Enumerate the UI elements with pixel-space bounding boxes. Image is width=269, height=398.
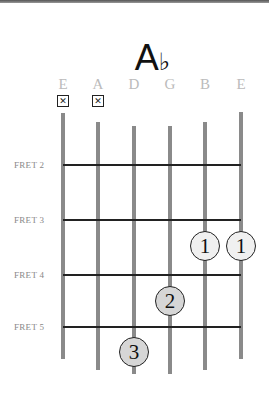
string-label-a: A <box>88 76 108 93</box>
fret-line-3 <box>63 219 241 221</box>
fret-line-2 <box>63 164 241 166</box>
fret-label-3: FRET 3 <box>14 215 44 225</box>
fret-label-2: FRET 2 <box>14 160 44 170</box>
fret-line-4 <box>63 274 241 276</box>
finger-dot-g-string: 2 <box>155 286 185 316</box>
fret-label-5: FRET 5 <box>14 322 44 332</box>
mute-icon-a: ✕ <box>92 95 104 107</box>
chord-root: A <box>135 37 159 78</box>
string-low-e <box>61 113 65 359</box>
finger-dot-b-string: 1 <box>190 231 220 261</box>
finger-dot-d-string: 3 <box>119 337 149 367</box>
top-border <box>0 0 269 3</box>
string-label-high-e: E <box>231 76 251 93</box>
chord-title: A♭ <box>0 40 269 76</box>
string-label-low-e: E <box>53 76 73 93</box>
finger-dot-high-e-string: 1 <box>226 231 256 261</box>
fret-line-5 <box>63 326 241 328</box>
string-label-d: D <box>124 76 144 93</box>
mute-icon-low-e: ✕ <box>57 95 69 107</box>
fret-label-4: FRET 4 <box>14 270 44 280</box>
string-a <box>96 122 100 370</box>
string-label-g: G <box>160 76 180 93</box>
chord-accidental: ♭ <box>159 48 170 76</box>
string-label-b: B <box>195 76 215 93</box>
